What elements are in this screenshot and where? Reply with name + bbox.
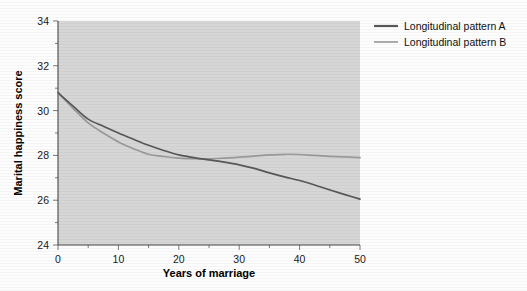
legend-label: Longitudinal pattern A <box>404 20 506 32</box>
x-tick-label: 50 <box>354 253 366 265</box>
y-tick-label: 24 <box>37 239 49 251</box>
chart-legend: Longitudinal pattern ALongitudinal patte… <box>374 20 506 48</box>
x-axis-title: Years of marriage <box>163 267 255 279</box>
y-axis-title: Marital happiness score <box>12 70 24 195</box>
x-tick-label: 0 <box>55 253 61 265</box>
x-axis-tick-labels: 01020304050 <box>55 253 366 265</box>
x-tick-label: 10 <box>113 253 125 265</box>
x-tick-label: 30 <box>233 253 245 265</box>
x-tick-label: 20 <box>173 253 185 265</box>
legend-label: Longitudinal pattern B <box>404 36 506 48</box>
y-axis-ticks <box>53 21 58 245</box>
y-tick-label: 34 <box>37 15 49 27</box>
y-tick-label: 28 <box>37 149 49 161</box>
y-tick-label: 26 <box>37 194 49 206</box>
y-axis-tick-labels: 242628303234 <box>37 15 49 251</box>
y-tick-label: 30 <box>37 105 49 117</box>
x-tick-label: 40 <box>294 253 306 265</box>
chart-figure: 242628303234 01020304050 Marital happine… <box>0 0 527 291</box>
line-chart: 242628303234 01020304050 Marital happine… <box>0 0 527 291</box>
x-axis-ticks <box>58 245 360 250</box>
y-tick-label: 32 <box>37 60 49 72</box>
